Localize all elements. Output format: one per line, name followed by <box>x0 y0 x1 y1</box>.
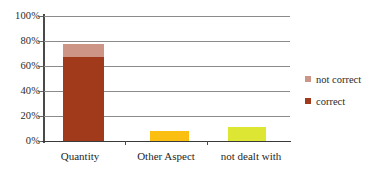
legend-swatch-icon <box>305 98 311 104</box>
legend-label: not correct <box>316 74 361 85</box>
y-axis-tick-label: 20% <box>2 111 40 121</box>
bar-segment-not-correct <box>63 44 104 58</box>
x-axis-tick-mark <box>207 141 208 145</box>
legend-swatch-icon <box>305 76 311 82</box>
x-axis-label-not-dealt-with: not dealt with <box>208 150 294 163</box>
legend-label: correct <box>316 96 345 107</box>
legend-item-not-correct: not correct <box>305 68 375 90</box>
bar-segment-other-aspect <box>150 131 189 141</box>
legend: not correct correct <box>305 68 375 112</box>
bar-other-aspect <box>150 16 189 141</box>
x-axis-label-other-aspect: Other Aspect <box>125 150 207 163</box>
y-axis-tick-label: 40% <box>2 86 40 96</box>
y-axis-tick-label: 80% <box>2 36 40 46</box>
bar-segment-correct <box>63 57 104 141</box>
bar-segment-not-dealt-with <box>228 127 266 141</box>
x-axis-tick-mark <box>125 141 126 145</box>
bar-chart: 100% 80% 60% 40% 20% 0% <box>0 0 376 172</box>
bar-quantity <box>63 16 104 141</box>
y-axis-tick-label: 100% <box>2 11 40 21</box>
bar-not-dealt-with <box>228 16 266 141</box>
y-axis-tick-label: 0% <box>2 136 40 146</box>
plot-area <box>44 16 290 141</box>
legend-item-correct: correct <box>305 90 375 112</box>
y-axis-tick-label: 60% <box>2 61 40 71</box>
y-axis: 100% 80% 60% 40% 20% 0% <box>0 0 40 172</box>
x-axis-label-quantity: Quantity <box>43 150 117 163</box>
